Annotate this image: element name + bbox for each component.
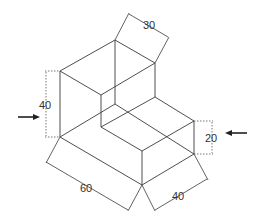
dim-label-40-bottom: 40	[172, 190, 184, 202]
hidden-base-edge	[115, 104, 194, 154]
left-base-edge	[60, 104, 115, 137]
dim-label-60: 60	[80, 182, 92, 194]
top-face	[60, 40, 155, 95]
step-front-edge	[101, 127, 142, 151]
dim-label-30: 30	[143, 19, 155, 31]
dimension-60: 60	[46, 137, 142, 211]
dimension-40-left: 40	[39, 71, 60, 137]
dim-label-20: 20	[205, 132, 217, 144]
left-view-arrow	[18, 114, 40, 120]
dimension-20: 20	[194, 121, 217, 154]
isometric-diagram: 30 40 20 60 40	[0, 0, 259, 223]
right-view-arrow	[225, 130, 247, 136]
bottom-right-edge	[142, 154, 194, 185]
step-back-edge	[155, 97, 194, 121]
block-edges	[60, 40, 194, 185]
dim-label-40-left: 40	[39, 99, 51, 111]
dimension-40-bottom: 40	[142, 154, 208, 211]
